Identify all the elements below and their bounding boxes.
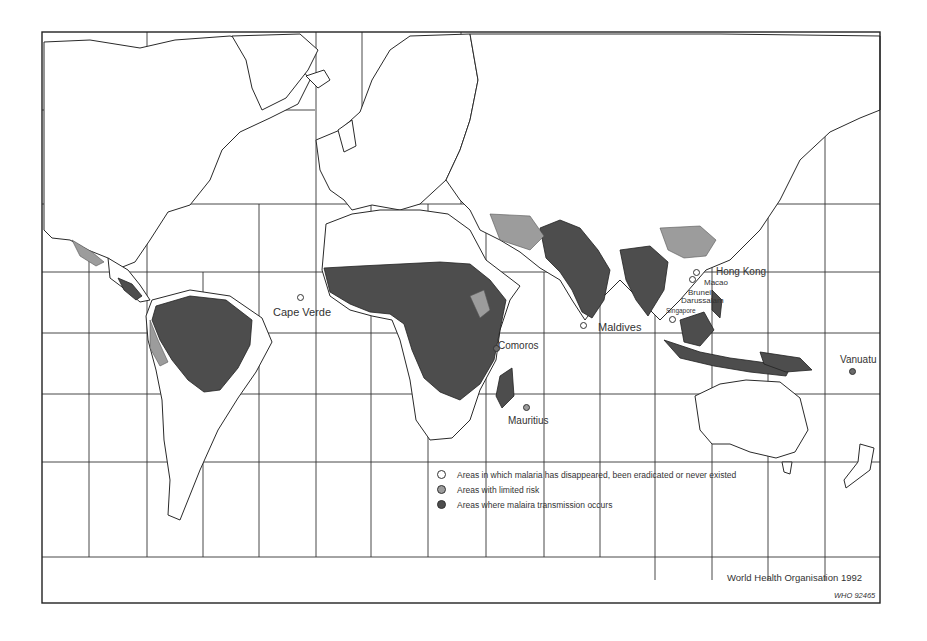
new-zealand	[844, 444, 874, 488]
borneo-transmission	[680, 312, 714, 346]
label-mauritius: Mauritius	[508, 416, 549, 426]
legend-item-transmission: Areas where malaira transmission occurs	[437, 497, 736, 512]
marker-mauritius	[523, 404, 530, 411]
legend-label: Areas in which malaria has disappeared, …	[457, 470, 736, 480]
label-hong-kong: Hong Kong	[716, 267, 766, 277]
label-macao: Macao	[704, 279, 728, 287]
madagascar-transmission	[496, 368, 514, 408]
label-maldives: Maldives	[598, 322, 641, 333]
label-darussalam: Darussalam	[681, 297, 724, 305]
world-map	[0, 0, 927, 641]
legend-swatch-white-circle-icon	[437, 470, 446, 479]
marker-hong-kong	[693, 269, 700, 276]
label-vanuatu: Vanuatu	[840, 355, 877, 365]
legend-label: Areas where malaira transmission occurs	[457, 500, 612, 510]
iceland	[306, 70, 330, 88]
tasmania	[782, 462, 792, 474]
source-credit: World Health Organisation 1992	[727, 572, 862, 583]
label-comoros: Comoros	[498, 341, 539, 351]
legend-swatch-dark-circle-icon	[437, 500, 446, 509]
legend-item-disappeared: Areas in which malaria has disappeared, …	[437, 467, 736, 482]
marker-macao	[689, 276, 696, 283]
legend-label: Areas with limited risk	[457, 485, 539, 495]
legend-item-limited-risk: Areas with limited risk	[437, 482, 736, 497]
marker-cape-verde	[297, 294, 304, 301]
marker-singapore	[669, 316, 676, 323]
marker-maldives	[580, 322, 587, 329]
map-legend: Areas in which malaria has disappeared, …	[437, 467, 736, 512]
marker-vanuatu	[849, 368, 856, 375]
label-cape-verde: Cape Verde	[273, 307, 331, 318]
label-singapore: Singapore	[666, 308, 696, 315]
reference-code: WHO 92465	[834, 591, 875, 600]
legend-swatch-grey-circle-icon	[437, 485, 446, 494]
